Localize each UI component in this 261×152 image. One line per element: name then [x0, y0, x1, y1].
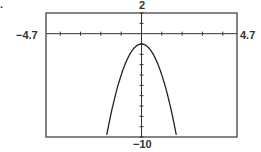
graph-plot [0, 0, 261, 152]
axes [46, 13, 237, 137]
